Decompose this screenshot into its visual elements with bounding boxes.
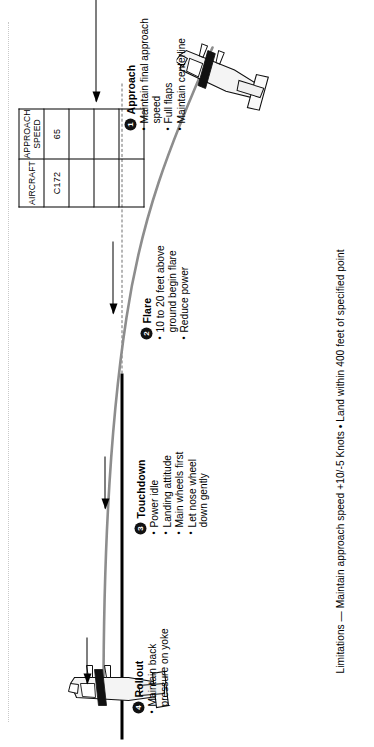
bullet-item: Full flaps xyxy=(162,0,174,130)
bullet-item: Reduce power xyxy=(178,245,190,339)
step-approach-bullets: Maintain final approach speed Full flaps… xyxy=(138,0,186,130)
step-approach-title: Approach xyxy=(124,64,136,114)
step-touchdown: 3 Touchdown Power idle Landing attitude … xyxy=(134,451,209,534)
bullet-item: Let nose wheel down gently xyxy=(186,451,209,534)
aircraft-approach-icon xyxy=(176,14,272,132)
step-rollout-badge: 4 xyxy=(132,701,144,713)
table-cell-aircraft[interactable]: C172 xyxy=(44,159,69,207)
step-flare-badge: 2 xyxy=(140,327,152,339)
table-cell-approach-speed[interactable]: 65 xyxy=(44,108,69,158)
table-cell-aircraft[interactable] xyxy=(119,159,144,207)
limitations-note: Limitations — Maintain approach speed +1… xyxy=(334,249,345,673)
step-touchdown-title: Touchdown xyxy=(134,459,146,518)
landing-profile-diagram: 4 Rollout Maintain back pressure on yoke… xyxy=(0,0,374,747)
step-flare-title: Flare xyxy=(140,297,152,323)
bullet-item: Main wheels first xyxy=(173,451,185,534)
bullet-item: Maintain centerline xyxy=(175,0,187,130)
bullet-item: 10 to 20 feet above ground begin flare xyxy=(154,245,177,339)
leader-arrow-approach xyxy=(95,0,96,101)
table-cell-aircraft[interactable] xyxy=(69,159,94,207)
table-cell-approach-speed[interactable] xyxy=(69,108,94,158)
step-flare: 2 Flare 10 to 20 feet above ground begin… xyxy=(140,245,190,339)
step-flare-bullets: 10 to 20 feet above ground begin flare R… xyxy=(154,245,190,339)
step-rollout-bullets: Maintain back pressure on yoke xyxy=(146,628,169,713)
table-header-approach-speed: APPROACH SPEED xyxy=(19,108,44,158)
table-cell-aircraft[interactable] xyxy=(94,159,119,207)
step-rollout-title: Rollout xyxy=(132,660,144,697)
table-row xyxy=(119,108,144,206)
bullet-item: Power idle xyxy=(148,451,160,534)
leader-arrow-rollout xyxy=(86,637,87,683)
step-flare-heading: 2 Flare xyxy=(140,245,152,339)
bullet-item: Landing attitude xyxy=(161,451,173,534)
step-touchdown-badge: 3 xyxy=(134,522,146,534)
table-cell-approach-speed[interactable] xyxy=(119,108,144,158)
approach-speed-table: AIRCRAFT APPROACH SPEED C172 65 xyxy=(18,108,144,207)
table-row xyxy=(69,108,94,206)
table-header-row: AIRCRAFT APPROACH SPEED xyxy=(19,108,44,206)
step-rollout: 4 Rollout Maintain back pressure on yoke xyxy=(132,628,169,713)
step-touchdown-heading: 3 Touchdown xyxy=(134,451,146,534)
table-row xyxy=(94,108,119,206)
step-touchdown-bullets: Power idle Landing attitude Main wheels … xyxy=(148,451,209,534)
bullet-item: Maintain back pressure on yoke xyxy=(146,628,169,713)
leader-arrow-flare xyxy=(112,241,113,313)
leader-arrow-touchdown xyxy=(104,456,105,508)
step-rollout-heading: 4 Rollout xyxy=(132,628,144,713)
approach-speed-table-wrapper: AIRCRAFT APPROACH SPEED C172 65 xyxy=(18,108,144,207)
table-cell-approach-speed[interactable] xyxy=(94,108,119,158)
table-header-aircraft: AIRCRAFT xyxy=(19,159,44,207)
table-row: C172 65 xyxy=(44,108,69,206)
